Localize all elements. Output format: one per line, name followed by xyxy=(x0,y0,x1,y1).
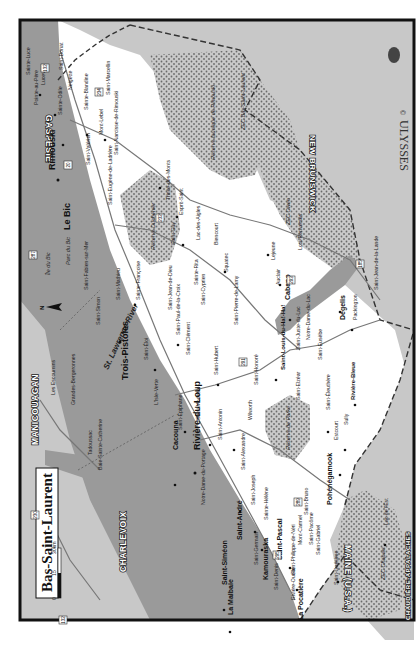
svg-text:Saint-Clément: Saint-Clément xyxy=(185,322,191,355)
svg-text:Lac-des-Aigles: Lac-des-Aigles xyxy=(195,205,201,240)
svg-text:Grandes-Bergeronnes: Grandes-Bergeronnes xyxy=(70,353,76,405)
svg-text:15: 15 xyxy=(51,570,57,576)
svg-text:Pohénégamook: Pohénégamook xyxy=(326,453,334,505)
svg-text:Mont-Lebel: Mont-Lebel xyxy=(98,109,104,135)
svg-text:Trinité-des-Monts: Trinité-des-Monts xyxy=(165,159,171,200)
svg-text:Auclair: Auclair xyxy=(275,269,281,285)
svg-text:Saint-Modeste: Saint-Modeste xyxy=(195,386,201,420)
svg-text:Saint-Onésime: Saint-Onésime xyxy=(333,551,339,585)
svg-text:Saint-Éleuthère: Saint-Éleuthère xyxy=(325,374,331,410)
svg-text:Saint-Denis: Saint-Denis xyxy=(273,563,279,590)
svg-text:Esprit-Saint: Esprit-Saint xyxy=(178,188,184,215)
svg-text:230: 230 xyxy=(33,511,38,519)
svg-text:Saint-Simon: Saint-Simon xyxy=(95,297,101,325)
svg-text:La Pocatière: La Pocatière xyxy=(297,578,304,620)
svg-text:Sainte-Odile: Sainte-Odile xyxy=(57,86,63,115)
svg-text:Saint-Elzéar: Saint-Elzéar xyxy=(295,371,301,400)
svg-text:Saint-Jean-de-la-Lande: Saint-Jean-de-la-Lande xyxy=(373,236,379,290)
svg-text:Saint-Marcellin: Saint-Marcellin xyxy=(105,61,111,95)
svg-text:Rivière-Ouelle: Rivière-Ouelle xyxy=(290,567,296,600)
svg-text:Estcourt: Estcourt xyxy=(333,420,339,440)
svg-text:NEW BRUNSWICK: NEW BRUNSWICK xyxy=(308,135,317,212)
svg-text:232: 232 xyxy=(158,214,163,222)
svg-text:Lac de l'Est: Lac de l'Est xyxy=(383,498,389,525)
svg-text:132: 132 xyxy=(43,64,48,72)
svg-text:Saint-Éloi: Saint-Éloi xyxy=(143,338,149,360)
svg-text:Réserve de Parke: Réserve de Parke xyxy=(285,406,291,450)
svg-text:Saint-Cyprien: Saint-Cyprien xyxy=(200,273,206,305)
svg-text:291: 291 xyxy=(241,358,246,366)
svg-text:L'Isle-Verte: L'Isle-Verte xyxy=(153,379,159,405)
svg-text:Saint-Pierre-de-Lamy: Saint-Pierre-de-Lamy xyxy=(233,275,239,325)
svg-text:Réserve Duchénier: Réserve Duchénier xyxy=(150,202,156,250)
svg-text:Rimouski: Rimouski xyxy=(47,129,57,170)
svg-text:Les Escoumins: Les Escoumins xyxy=(50,359,56,395)
svg-text:Saint-Eusèbe: Saint-Eusèbe xyxy=(317,329,323,360)
svg-text:CHARLEVOIX: CHARLEVOIX xyxy=(118,511,128,572)
svg-text:293: 293 xyxy=(289,276,294,284)
svg-text:Saint-Narcisse-de-Rimouski: Saint-Narcisse-de-Rimouski xyxy=(113,91,119,155)
svg-text:Sainte-Hélène: Sainte-Hélène xyxy=(263,487,269,520)
svg-text:MANICOUAGAN: MANICOUAGAN xyxy=(30,374,40,445)
svg-text:Saint-Juste-du-Lac: Saint-Juste-du-Lac xyxy=(295,306,301,350)
svg-text:Le Bic: Le Bic xyxy=(62,203,72,230)
svg-text:Saint-André: Saint-André xyxy=(236,500,243,540)
svg-text:Lots-Renversés: Lots-Renversés xyxy=(297,213,303,250)
svg-text:295: 295 xyxy=(275,551,280,559)
svg-text:Saint-Germain: Saint-Germain xyxy=(253,531,259,565)
svg-text:Saint-Fabien-sur-Mer: Saint-Fabien-sur-Mer xyxy=(83,241,89,290)
svg-text:Réserve faunique de Rimouski: Réserve faunique de Rimouski xyxy=(210,84,216,160)
palm-logo-icon xyxy=(388,47,400,63)
svg-text:Saint-Bruno: Saint-Bruno xyxy=(303,487,309,515)
svg-text:Parc du Bic: Parc du Bic xyxy=(65,237,71,265)
svg-text:287: 287 xyxy=(31,251,36,259)
svg-text:132: 132 xyxy=(61,616,66,624)
svg-text:Sainte-Françoise: Sainte-Françoise xyxy=(135,261,141,300)
svg-text:0: 0 xyxy=(51,597,57,600)
svg-text:Trois-Pistoles: Trois-Pistoles xyxy=(120,321,130,380)
svg-text:185: 185 xyxy=(358,260,363,268)
svg-text:Saint-Pacôme: Saint-Pacôme xyxy=(308,512,314,545)
svg-text:Saint-Gabriel: Saint-Gabriel xyxy=(315,525,321,555)
svg-text:ZEC Chapais: ZEC Chapais xyxy=(380,547,386,581)
svg-text:Saint-Honoré: Saint-Honoré xyxy=(253,354,259,385)
svg-text:ULYSSES: ULYSSES xyxy=(397,120,411,171)
svg-text:Sainte-Luce: Sainte-Luce xyxy=(25,47,31,75)
svg-text:Saint-Valérien: Saint-Valérien xyxy=(85,133,91,165)
svg-text:N: N xyxy=(39,306,45,310)
svg-text:234: 234 xyxy=(97,88,102,96)
svg-text:Packington: Packington xyxy=(352,294,358,320)
svg-text:289: 289 xyxy=(296,498,301,506)
svg-text:©: © xyxy=(399,110,406,116)
svg-text:Saint-Guy: Saint-Guy xyxy=(170,222,176,245)
svg-text:Saint-Alexandre: Saint-Alexandre xyxy=(240,433,246,470)
svg-text:Saint-Siméon: Saint-Siméon xyxy=(221,540,228,585)
svg-text:Sainte-Rita: Sainte-Rita xyxy=(193,259,199,285)
svg-text:ZEC Bas-Saint-Laurent: ZEC Bas-Saint-Laurent xyxy=(240,73,246,131)
svg-text:Lejeune: Lejeune xyxy=(270,241,276,260)
svg-text:Saint-Jean-de-Dieu: Saint-Jean-de-Dieu xyxy=(167,265,173,310)
svg-text:MAINE (U.S.A.): MAINE (U.S.A.) xyxy=(343,545,353,612)
svg-text:Saint-Hubert: Saint-Hubert xyxy=(213,345,219,375)
svg-text:30km: 30km xyxy=(51,541,57,554)
svg-text:Mont-Carmel: Mont-Carmel xyxy=(297,515,303,545)
svg-text:Sainte-Blandine: Sainte-Blandine xyxy=(83,73,89,110)
map-bas-saint-laurent: Bas-Saint-Laurent 0 15 30km N ULYSSES © … xyxy=(0,0,418,649)
svg-text:CHAUDIÈRE-APPALACHES: CHAUDIÈRE-APPALACHES xyxy=(404,531,411,620)
svg-text:Kamouraska: Kamouraska xyxy=(262,538,269,580)
svg-text:Neigette: Neigette xyxy=(67,71,73,90)
svg-text:Saint-Joseph: Saint-Joseph xyxy=(250,475,256,505)
svg-text:Tadoussac: Tadoussac xyxy=(87,430,93,455)
svg-text:Saint-Louis-du-Ha!-Ha!: Saint-Louis-du-Ha!-Ha! xyxy=(280,305,286,370)
svg-text:Baie-Sainte-Catherine: Baie-Sainte-Catherine xyxy=(97,419,103,470)
svg-text:Île du Bic: Île du Bic xyxy=(45,252,51,275)
svg-text:Notre-Dame-du-Lac: Notre-Dame-du-Lac xyxy=(305,294,311,340)
svg-text:Biencourt: Biencourt xyxy=(213,223,219,245)
svg-text:Sully: Sully xyxy=(343,413,349,425)
svg-text:Saint-Paul-de-la-Croix: Saint-Paul-de-la-Croix xyxy=(175,284,181,335)
svg-text:Rivière-Bleue: Rivière-Bleue xyxy=(350,361,356,400)
svg-text:Pointe-au-Père: Pointe-au-Père xyxy=(33,70,39,105)
svg-text:Dégelis: Dégelis xyxy=(339,295,347,320)
svg-text:ZEC Owen: ZEC Owen xyxy=(285,198,291,226)
title-box: Bas-Saint-Laurent xyxy=(36,468,58,598)
